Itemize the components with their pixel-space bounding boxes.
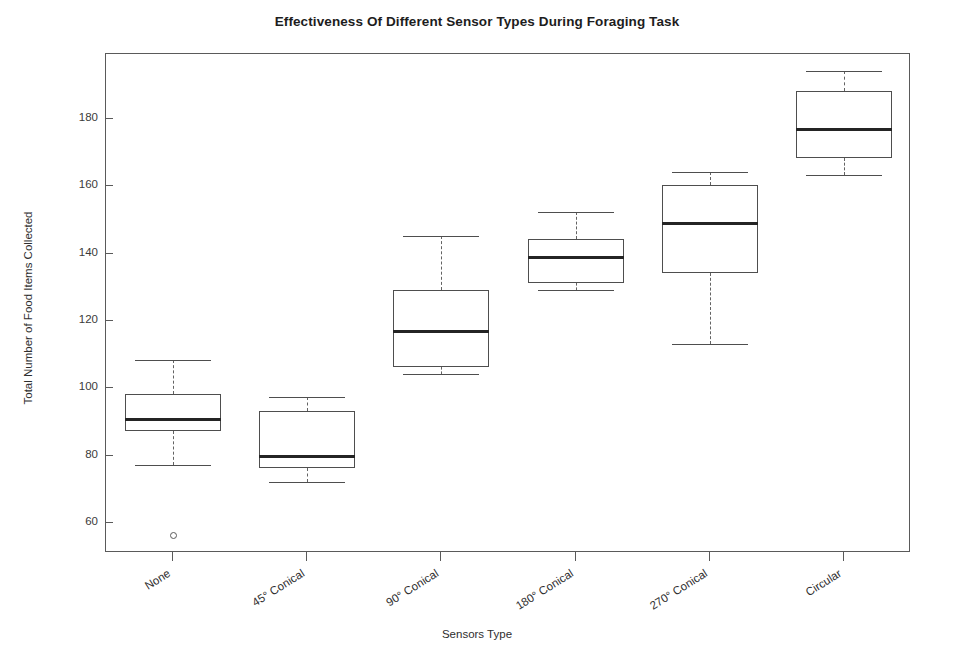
chart-title: Effectiveness Of Different Sensor Types …: [0, 14, 954, 29]
box-plot-box: [106, 54, 909, 551]
box-plot-figure: Effectiveness Of Different Sensor Types …: [0, 0, 954, 669]
x-tick-label: 180° Conical: [416, 567, 575, 669]
whisker-cap-lower: [806, 175, 882, 176]
x-tick-mark: [843, 552, 844, 561]
x-tick-label: Circular: [684, 567, 843, 669]
x-tick-mark: [440, 552, 441, 561]
plot-inner: [106, 54, 909, 551]
y-tick-label: 80: [85, 448, 98, 460]
y-tick-label: 100: [79, 380, 98, 392]
x-tick-mark: [306, 552, 307, 561]
x-axis-label: Sensors Type: [0, 628, 954, 640]
y-axis-ticks: 6080100120140160180: [0, 0, 98, 669]
whisker-upper: [844, 71, 845, 91]
y-tick-label: 120: [79, 313, 98, 325]
x-tick-mark: [709, 552, 710, 561]
y-tick-label: 140: [79, 246, 98, 258]
x-tick-label: 90° Conical: [282, 567, 441, 669]
x-tick-label: 45° Conical: [148, 567, 307, 669]
box-iqr: [796, 91, 892, 158]
plot-area: [105, 53, 910, 552]
x-tick-label: 270° Conical: [550, 567, 709, 669]
y-tick-label: 180: [79, 111, 98, 123]
median-line: [796, 128, 892, 131]
x-tick-mark: [575, 552, 576, 561]
y-tick-label: 160: [79, 178, 98, 190]
x-tick-mark: [172, 552, 173, 561]
y-tick-label: 60: [85, 515, 98, 527]
whisker-lower: [844, 158, 845, 175]
whisker-cap-upper: [806, 71, 882, 72]
